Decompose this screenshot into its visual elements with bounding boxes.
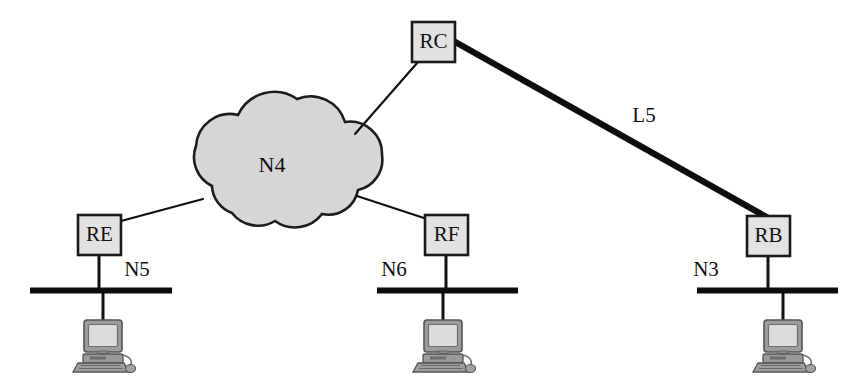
router-rc[interactable]: RC [412, 22, 455, 62]
network-label-n5: N5 [124, 257, 150, 281]
workstation-n5[interactable] [73, 320, 136, 373]
link-rc-cloud[interactable] [355, 62, 418, 134]
network-diagram: N4 L5 N5 N6 [0, 0, 862, 384]
link-rf-cloud[interactable] [357, 196, 427, 219]
computer-icon [73, 320, 136, 373]
network-label-n3: N3 [693, 257, 719, 281]
cloud-n4[interactable]: N4 [194, 92, 382, 228]
cloud-shape [194, 92, 382, 228]
router-re[interactable]: RE [78, 215, 121, 255]
router-rb[interactable]: RB [747, 216, 790, 256]
router-rf[interactable]: RF [425, 215, 468, 255]
computer-icon [413, 320, 476, 373]
router-label-rb: RB [754, 223, 782, 247]
cloud-label-n4: N4 [259, 152, 286, 177]
link-l5-line [450, 39, 770, 219]
workstation-n3[interactable] [753, 320, 816, 373]
diagram-canvas: N4 L5 N5 N6 [0, 0, 862, 384]
workstation-n6[interactable] [413, 320, 476, 373]
network-segment-n3[interactable]: N3 [693, 257, 838, 291]
link-l5[interactable]: L5 [450, 39, 770, 219]
network-segment-n5[interactable]: N5 [30, 257, 172, 291]
router-label-rf: RF [434, 222, 460, 246]
network-label-n6: N6 [381, 257, 407, 281]
computer-icon [753, 320, 816, 373]
router-label-rc: RC [419, 29, 447, 53]
link-re-cloud[interactable] [121, 199, 203, 221]
router-label-re: RE [86, 222, 113, 246]
link-label-l5: L5 [632, 103, 655, 127]
